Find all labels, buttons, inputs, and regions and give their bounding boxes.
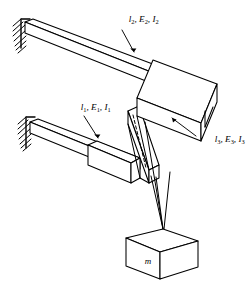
label-beam-1: l1, E1, I1 <box>60 102 127 114</box>
label-beam-2: l2, E2, I2 <box>108 14 175 26</box>
engineering-diagram: l2, E2, I2 l1, E1, I1 l3, E3, I3 m <box>0 0 248 284</box>
label-mass: m <box>145 256 152 266</box>
label-beam-2-I-sub: 2 <box>156 18 159 25</box>
label-beam-1-I-sub: 1 <box>108 106 111 113</box>
svg-text:l1, E1, I1: l1, E1, I1 <box>60 102 127 114</box>
beam-1-end-stub <box>88 141 140 183</box>
svg-text:l3, E3, I3: l3, E3, I3 <box>194 134 248 146</box>
suspended-mass-block <box>126 229 198 279</box>
label-beam-3-I-sub: 3 <box>242 138 245 145</box>
cantilever-beam-2 <box>25 19 166 85</box>
svg-text:l2, E2, I2: l2, E2, I2 <box>108 14 175 26</box>
junction-block <box>137 60 217 141</box>
figure-root: l2, E2, I2 l1, E1, I1 l3, E3, I3 m <box>0 0 248 284</box>
leader-beam-1 <box>84 116 100 138</box>
label-beam-3: l3, E3, I3 <box>194 134 248 146</box>
leader-beam-2 <box>122 30 136 52</box>
label-mass-text: m <box>145 256 152 266</box>
